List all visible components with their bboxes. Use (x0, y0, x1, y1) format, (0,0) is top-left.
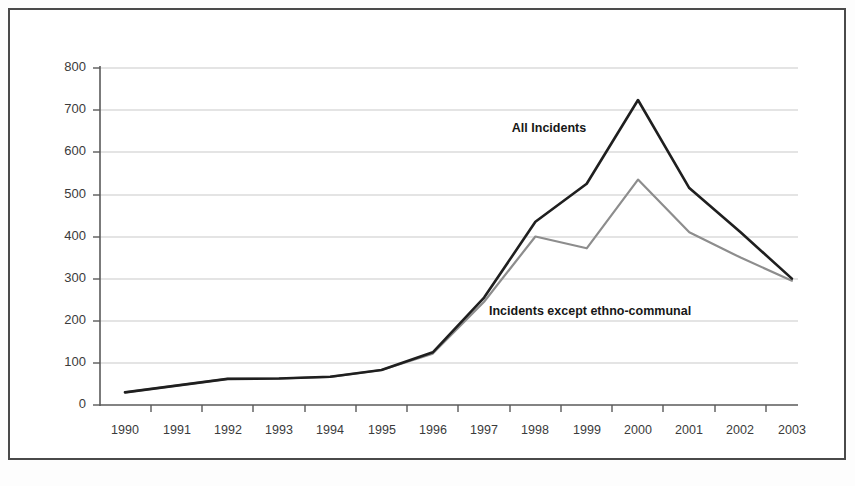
x-tick-labels: 1990 1991 1992 1993 1994 1995 1996 1997 … (111, 423, 806, 437)
y-label-200: 200 (64, 312, 86, 327)
x-label-1994: 1994 (316, 423, 344, 437)
series-line-incidents-except-ethno-communal (125, 180, 792, 393)
x-label-2000: 2000 (624, 423, 652, 437)
series-line-all-incidents (125, 100, 792, 392)
y-label-500: 500 (64, 186, 86, 201)
y-tick-marks (93, 68, 100, 405)
y-label-700: 700 (64, 101, 86, 116)
gridlines (100, 68, 798, 363)
chart-page: 800 700 600 500 400 300 200 100 0 (0, 0, 855, 486)
chart-svg: 800 700 600 500 400 300 200 100 0 (0, 0, 855, 486)
y-tick-labels: 800 700 600 500 400 300 200 100 0 (64, 59, 86, 411)
x-label-1993: 1993 (265, 423, 293, 437)
x-label-2003: 2003 (778, 423, 806, 437)
y-label-100: 100 (64, 354, 86, 369)
y-label-600: 600 (64, 143, 86, 158)
y-label-0: 0 (79, 396, 86, 411)
x-label-1990: 1990 (111, 423, 139, 437)
y-label-400: 400 (64, 228, 86, 243)
x-label-2001: 2001 (675, 423, 703, 437)
x-tick-marks (151, 405, 766, 412)
axes (100, 66, 798, 406)
y-label-800: 800 (64, 59, 86, 74)
line-chart: 800 700 600 500 400 300 200 100 0 (0, 0, 855, 486)
x-label-1995: 1995 (368, 423, 396, 437)
x-label-1999: 1999 (573, 423, 601, 437)
x-label-1996: 1996 (419, 423, 447, 437)
x-label-1998: 1998 (521, 423, 549, 437)
x-label-1997: 1997 (470, 423, 498, 437)
x-label-2002: 2002 (726, 423, 754, 437)
y-label-300: 300 (64, 270, 86, 285)
x-label-1992: 1992 (214, 423, 242, 437)
annotation-all-incidents: All Incidents (512, 121, 586, 135)
annotation-incidents-except-ethno-communal: Incidents except ethno-communal (489, 304, 691, 318)
x-label-1991: 1991 (163, 423, 191, 437)
